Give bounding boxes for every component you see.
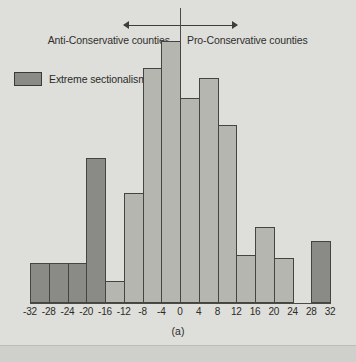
bar-4-to-8 [199,78,219,303]
tick-label--16: -16 [98,306,112,317]
bar--4-to-0 [161,41,181,303]
tick-label-32: 32 [325,306,336,317]
tick-label-16: 16 [250,306,261,317]
bar-8-to-12 [218,125,238,303]
bar-12-to-16 [236,255,256,303]
tick-label-8: 8 [215,306,220,317]
tick-label-12: 12 [231,306,242,317]
figure-caption: (a) [0,325,356,337]
tick-label-20: 20 [268,306,279,317]
tick-label-24: 24 [287,306,298,317]
x-axis-baseline [30,303,331,304]
tick-label--4: -4 [157,306,166,317]
bar-28-to-32 [311,241,331,303]
tick-label-0: 0 [177,306,182,317]
tick-label--32: -32 [23,306,37,317]
bar-20-to-24 [274,258,294,303]
tick-label-4: 4 [196,306,201,317]
bar--12-to--8 [124,193,144,303]
bar--24-to--20 [68,263,88,303]
bar--28-to--24 [49,263,69,303]
figure-panel: Anti-Conservative counties Pro-Conservat… [0,0,356,345]
bar--32-to--28 [30,263,50,303]
tick-label--12: -12 [117,306,131,317]
plot-area [30,18,330,303]
tick-label--8: -8 [138,306,147,317]
bar--8-to--4 [143,68,163,303]
bar-16-to-20 [255,227,275,303]
bar-0-to-4 [180,98,200,303]
tick-label--28: -28 [42,306,56,317]
x-axis-tick-labels: -32-28-24-20-16-12-8-4048121620242832 [30,306,330,322]
tick-label-28: 28 [306,306,317,317]
page-bottom-strip [0,345,356,362]
tick-label--20: -20 [79,306,93,317]
tick-label--24: -24 [61,306,75,317]
bar--20-to--16 [86,158,106,303]
bar--16-to--12 [105,281,125,303]
